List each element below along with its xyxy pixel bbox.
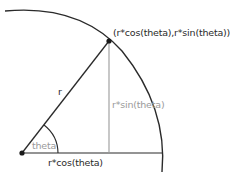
radius-label: r <box>58 86 62 97</box>
point-label: (r*cos(theta),r*sin(theta)) <box>113 27 230 38</box>
polar-coordinates-diagram: (r*cos(theta),r*sin(theta)) r r*sin(thet… <box>0 0 237 178</box>
angle-label: theta <box>32 140 56 151</box>
origin-point <box>19 150 24 155</box>
adjacent-label: r*cos(theta) <box>48 157 103 168</box>
opposite-label: r*sin(theta) <box>112 99 164 110</box>
circle-point <box>106 38 111 43</box>
radius-line <box>22 41 109 153</box>
